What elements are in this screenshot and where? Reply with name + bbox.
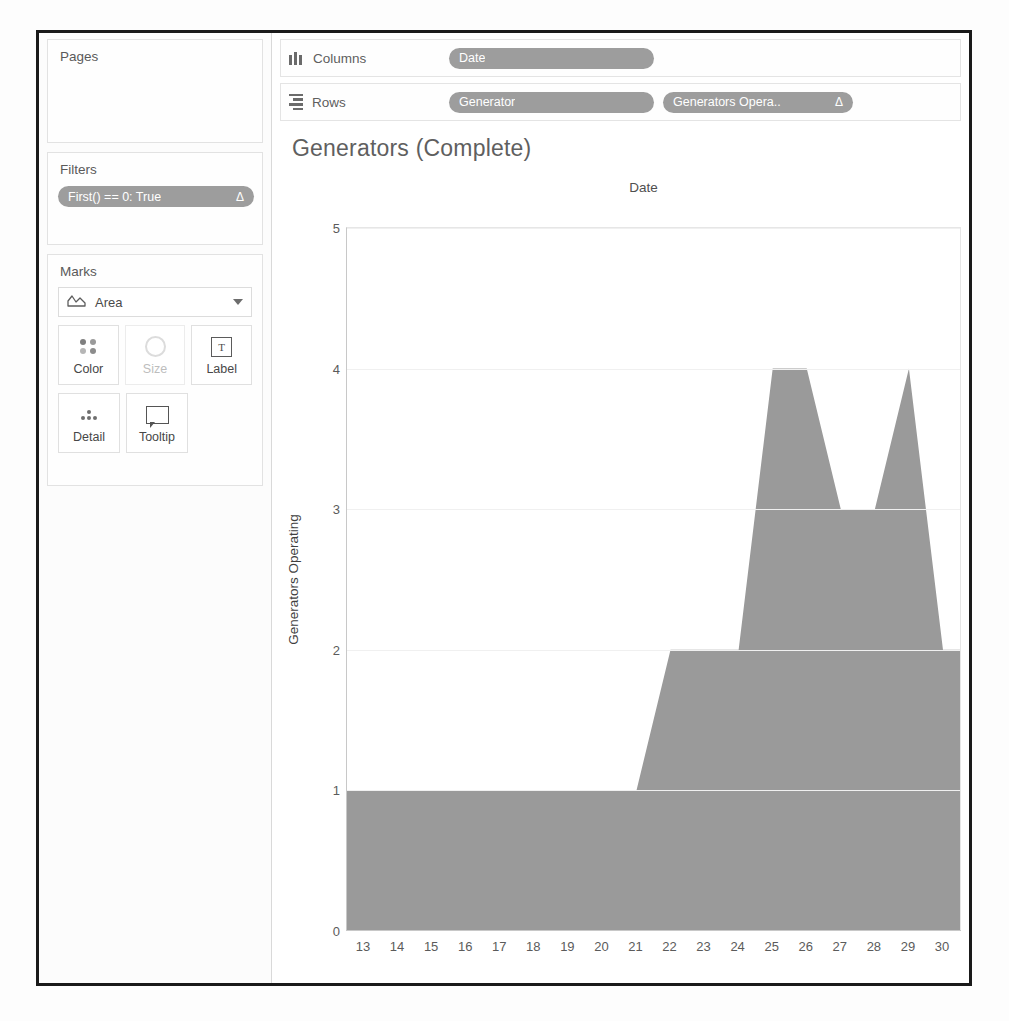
rows-shelf[interactable]: Rows Generator Generators Opera.. Δ xyxy=(280,83,961,121)
x-axis-tick-label: 25 xyxy=(764,939,778,954)
pages-card-title: Pages xyxy=(48,40,262,70)
plot-area[interactable]: 012345 xyxy=(346,227,961,931)
x-axis-tick-label: 24 xyxy=(730,939,744,954)
x-axis-tick-label: 21 xyxy=(628,939,642,954)
x-axis-tick-label: 18 xyxy=(526,939,540,954)
tableau-worksheet-window: Pages Filters First() == 0: True Δ Marks… xyxy=(36,30,972,986)
pill-date-label: Date xyxy=(459,51,485,65)
x-axis-tick-label: 13 xyxy=(356,939,370,954)
x-axis-tick-label: 20 xyxy=(594,939,608,954)
columns-icon xyxy=(289,52,304,65)
tooltip-icon xyxy=(146,403,169,427)
rows-icon xyxy=(289,94,303,110)
filter-pill-label: First() == 0: True xyxy=(68,190,161,204)
delta-icon: Δ xyxy=(236,190,244,204)
tooltip-button[interactable]: Tooltip xyxy=(126,393,188,453)
label-button-label: Label xyxy=(206,362,237,376)
gridline xyxy=(347,650,960,651)
y-axis-tick-label: 1 xyxy=(333,783,340,798)
columns-pill-list: Date xyxy=(449,48,654,69)
columns-shelf-label: Columns xyxy=(289,51,449,66)
pill-generators-operating-label: Generators Opera.. xyxy=(673,95,781,109)
pages-card[interactable]: Pages xyxy=(47,39,263,143)
pill-date[interactable]: Date xyxy=(449,48,654,69)
gridline xyxy=(347,509,960,510)
y-axis-title-text: Generators Operating xyxy=(286,514,301,645)
y-axis-tick-label: 0 xyxy=(333,924,340,939)
left-sidebar: Pages Filters First() == 0: True Δ Marks… xyxy=(39,33,272,983)
column-field-header: Date xyxy=(280,180,961,195)
detail-button-label: Detail xyxy=(73,430,105,444)
filter-pill[interactable]: First() == 0: True Δ xyxy=(58,186,254,207)
filters-card-title: Filters xyxy=(48,153,262,183)
detail-dots-icon xyxy=(81,403,97,427)
x-axis-tick-label: 17 xyxy=(492,939,506,954)
tooltip-button-label: Tooltip xyxy=(139,430,175,444)
mark-type-dropdown[interactable]: Area xyxy=(58,287,252,317)
x-axis: 131415161718192021222324252627282930 xyxy=(346,930,961,977)
color-button[interactable]: Color xyxy=(58,325,119,385)
x-axis-tick-label: 15 xyxy=(424,939,438,954)
area-chart-icon xyxy=(67,294,86,311)
color-dots-icon xyxy=(80,335,97,359)
pill-generator[interactable]: Generator xyxy=(449,92,654,113)
marks-buttons-row-1: Color Size T Label xyxy=(58,325,252,385)
marks-card[interactable]: Marks Area Color xyxy=(47,254,263,486)
detail-button[interactable]: Detail xyxy=(58,393,120,453)
x-axis-tick-label: 26 xyxy=(799,939,813,954)
pill-generator-label: Generator xyxy=(459,95,515,109)
plot-wrapper: Generators Operating 012345 131415161718… xyxy=(280,227,961,977)
rows-shelf-label: Rows xyxy=(289,94,449,110)
x-axis-tick-label: 29 xyxy=(901,939,915,954)
filters-card[interactable]: Filters First() == 0: True Δ xyxy=(47,152,263,245)
x-axis-tick-label: 19 xyxy=(560,939,574,954)
gridline xyxy=(347,228,960,229)
area-chart-svg xyxy=(347,228,960,931)
y-axis-tick-label: 5 xyxy=(333,221,340,236)
columns-shelf[interactable]: Columns Date xyxy=(280,39,961,77)
label-button[interactable]: T Label xyxy=(191,325,252,385)
size-circle-icon xyxy=(145,335,166,359)
gridline xyxy=(347,369,960,370)
rows-label-text: Rows xyxy=(312,95,346,110)
text-label-icon: T xyxy=(211,335,232,359)
size-button-label: Size xyxy=(143,362,167,376)
x-axis-tick-label: 22 xyxy=(662,939,676,954)
rows-pill-list: Generator Generators Opera.. Δ xyxy=(449,92,853,113)
mark-type-value: Area xyxy=(95,295,233,310)
right-pane: Columns Date Rows Generator Generators O… xyxy=(272,33,969,983)
x-axis-tick-label: 27 xyxy=(833,939,847,954)
pill-generators-operating[interactable]: Generators Opera.. Δ xyxy=(663,92,853,113)
marks-buttons-row-2: Detail Tooltip xyxy=(58,393,252,453)
page-title: Generators (Complete) xyxy=(280,131,961,162)
y-axis-tick-label: 3 xyxy=(333,502,340,517)
y-axis-tick-label: 2 xyxy=(333,642,340,657)
columns-label-text: Columns xyxy=(313,51,366,66)
x-axis-tick-label: 14 xyxy=(390,939,404,954)
visualization-pane: Generators (Complete) Date Generators Op… xyxy=(280,131,961,977)
chevron-down-icon[interactable] xyxy=(233,299,243,305)
y-axis-title: Generators Operating xyxy=(284,227,302,931)
x-axis-tick-label: 23 xyxy=(696,939,710,954)
marks-card-title: Marks xyxy=(48,255,262,285)
x-axis-tick-label: 28 xyxy=(867,939,881,954)
x-axis-tick-label: 16 xyxy=(458,939,472,954)
size-button[interactable]: Size xyxy=(125,325,186,385)
gridline xyxy=(347,790,960,791)
delta-icon: Δ xyxy=(835,95,843,109)
y-axis-tick-label: 4 xyxy=(333,361,340,376)
x-axis-tick-label: 30 xyxy=(935,939,949,954)
color-button-label: Color xyxy=(73,362,103,376)
